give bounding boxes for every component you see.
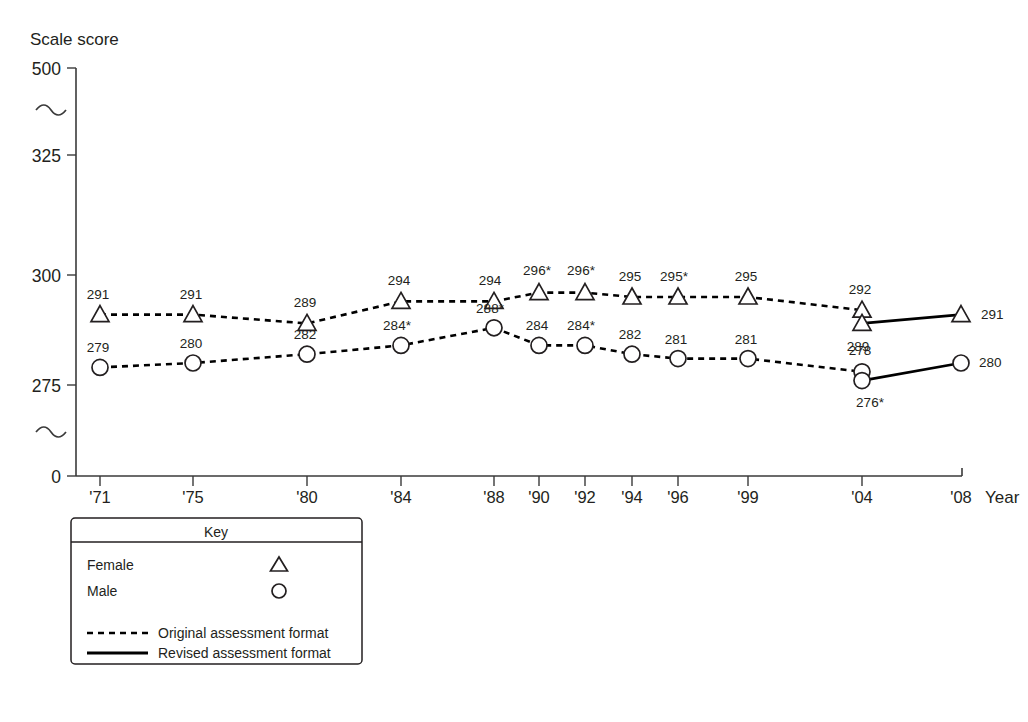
data-point-circle bbox=[577, 337, 593, 353]
key-item-label-male: Male bbox=[87, 583, 118, 599]
x-tick-label-80: '80 bbox=[296, 488, 318, 506]
data-point-triangle bbox=[739, 288, 757, 304]
data-point-circle bbox=[624, 346, 640, 362]
data-point-circle bbox=[393, 337, 409, 353]
y-axis-ticks: 500 325 300 275 0 bbox=[32, 59, 76, 487]
data-point-value-label: 291 bbox=[87, 287, 110, 302]
data-point-value-label: 292 bbox=[849, 282, 872, 297]
data-point-circle bbox=[486, 320, 502, 336]
data-point-value-label: 280 bbox=[180, 336, 203, 351]
y-tick-label-275: 275 bbox=[32, 376, 61, 396]
data-point-value-label: 295 bbox=[735, 269, 758, 284]
data-point-value-label: 281 bbox=[735, 332, 758, 347]
data-point-value-label: 282 bbox=[294, 327, 317, 342]
data-point-value-label: 281 bbox=[665, 332, 688, 347]
key-item-label-female: Female bbox=[87, 557, 134, 573]
data-point-circle bbox=[92, 359, 108, 375]
x-axis-title: Year bbox=[985, 488, 1020, 507]
y-axis-title: Scale score bbox=[30, 30, 119, 49]
series-layer bbox=[100, 293, 961, 381]
y-tick-label-0: 0 bbox=[51, 467, 61, 487]
key-item-label-revised-format: Revised assessment format bbox=[158, 645, 331, 661]
data-point-triangle bbox=[576, 284, 594, 300]
data-point-circle bbox=[670, 351, 686, 367]
legend-key: Key Female Male Original assessment form… bbox=[71, 518, 362, 664]
axis-break-upper-icon bbox=[36, 105, 66, 115]
series-line-female-revised bbox=[862, 315, 961, 324]
data-point-value-label: 288* bbox=[476, 301, 505, 316]
x-tick-label-96: '96 bbox=[667, 488, 689, 506]
data-point-value-label: 294 bbox=[388, 273, 411, 288]
data-point-value-label: 279 bbox=[87, 340, 110, 355]
data-point-value-label: 296* bbox=[567, 263, 596, 278]
data-point-circle bbox=[531, 337, 547, 353]
data-point-value-label: 295 bbox=[619, 269, 642, 284]
x-tick-label-71: '71 bbox=[89, 488, 111, 506]
data-point-triangle bbox=[530, 284, 548, 300]
x-tick-label-88: '88 bbox=[483, 488, 505, 506]
data-point-value-label: 291 bbox=[180, 287, 203, 302]
data-point-value-label: 294 bbox=[479, 273, 502, 288]
y-tick-label-500: 500 bbox=[32, 59, 61, 79]
data-point-circle bbox=[185, 355, 201, 371]
x-tick-label-04: '04 bbox=[851, 488, 873, 506]
chart-container: Scale score 500 325 300 275 0 '71 ' bbox=[0, 0, 1028, 722]
data-point-value-label: 278 bbox=[849, 343, 872, 358]
data-point-value-label: 295* bbox=[660, 269, 689, 284]
data-point-value-label: 280 bbox=[979, 355, 1002, 370]
data-point-triangle bbox=[91, 306, 109, 322]
series-line-male-revised bbox=[862, 363, 961, 381]
circle-marker-icon bbox=[272, 584, 286, 598]
data-point-circle bbox=[854, 373, 870, 389]
data-point-value-label: 284* bbox=[567, 318, 596, 333]
data-point-value-label: 289 bbox=[294, 295, 317, 310]
y-tick-label-300: 300 bbox=[32, 266, 61, 286]
x-tick-label-84: '84 bbox=[390, 488, 412, 506]
x-tick-label-75: '75 bbox=[182, 488, 204, 506]
data-point-value-label: 284 bbox=[526, 318, 549, 333]
y-tick-label-325: 325 bbox=[32, 146, 61, 166]
data-point-value-label: 296* bbox=[523, 263, 552, 278]
data-point-triangle bbox=[184, 306, 202, 322]
data-point-value-label: 282 bbox=[619, 327, 642, 342]
x-tick-label-92: '92 bbox=[574, 488, 596, 506]
key-title: Key bbox=[204, 524, 228, 540]
x-tick-label-99: '99 bbox=[737, 488, 759, 506]
data-point-value-label: 284* bbox=[383, 318, 412, 333]
naep-trend-line-chart: Scale score 500 325 300 275 0 '71 ' bbox=[0, 0, 1028, 722]
data-point-triangle bbox=[952, 306, 970, 322]
data-point-value-label: 291 bbox=[981, 307, 1004, 322]
x-axis-ticks: '71 '75 '80 '84 '88 '90 '92 '94 '96 '99 … bbox=[89, 476, 972, 506]
data-point-circle bbox=[953, 355, 969, 371]
data-point-circle bbox=[299, 346, 315, 362]
data-point-circle bbox=[740, 351, 756, 367]
axis-break-lower-icon bbox=[36, 427, 66, 437]
key-item-label-original-format: Original assessment format bbox=[158, 625, 329, 641]
x-tick-label-08: '08 bbox=[950, 488, 972, 506]
x-tick-label-94: '94 bbox=[621, 488, 643, 506]
data-point-value-label: 276* bbox=[856, 395, 885, 410]
marker-layer bbox=[91, 284, 970, 389]
x-tick-label-90: '90 bbox=[528, 488, 550, 506]
